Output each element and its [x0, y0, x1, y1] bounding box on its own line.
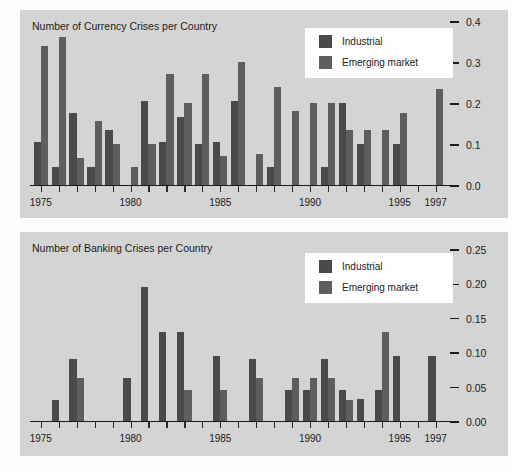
bar-industrial-1979 [105, 130, 112, 185]
bar-industrial-1985 [213, 142, 220, 185]
y-tick-0.1: 0.1 [450, 139, 481, 151]
y-tick-dash-icon [450, 387, 459, 388]
bar-industrial-1993 [357, 144, 364, 185]
y-tick-dash-icon [450, 21, 459, 22]
bar-emerging-market-1977 [77, 158, 84, 185]
bar-emerging-market-1983 [184, 103, 191, 185]
bar-industrial-1994 [375, 390, 382, 421]
bar-emerging-market-1985 [220, 390, 227, 421]
bar-emerging-market-1981 [148, 144, 155, 185]
legend-label-emerging: Emerging market [342, 282, 418, 293]
y-tick-0.20: 0.20 [450, 278, 486, 290]
bar-emerging-market-1985 [220, 156, 227, 185]
x-label-1975: 1975 [30, 433, 52, 444]
bar-emerging-market-1979 [113, 144, 120, 185]
figure-two-panel-crisis-charts: Number of Currency Crises per Country 19… [0, 0, 512, 472]
bar-emerging-market-1997 [436, 89, 443, 185]
x-label-1980: 1980 [119, 197, 141, 208]
bar-emerging-market-1994 [382, 130, 389, 185]
bar-emerging-market-1988 [274, 87, 281, 185]
bar-industrial-1991 [321, 167, 328, 185]
y-tick-dash-icon [450, 249, 459, 250]
y-tick-label: 0.0 [466, 180, 481, 192]
bar-emerging-market-1987 [256, 154, 263, 185]
legend-label-industrial: Industrial [342, 261, 383, 272]
legend-currency: Industrial Emerging market [305, 28, 453, 78]
y-tick-0.3: 0.3 [450, 57, 481, 69]
bar-emerging-market-1984 [202, 74, 209, 185]
y-tick-label: 0.15 [466, 313, 486, 325]
bar-emerging-market-1990 [310, 378, 317, 421]
x-label-1985: 1985 [209, 197, 231, 208]
bar-industrial-1990 [303, 390, 310, 421]
bar-emerging-market-1990 [310, 103, 317, 185]
y-tick-label: 0.3 [466, 57, 481, 69]
y-tick-label: 0.4 [466, 16, 481, 28]
y-tick-label: 0.00 [466, 416, 486, 428]
bar-industrial-1976 [52, 167, 59, 185]
x-label-1995: 1995 [389, 433, 411, 444]
bar-emerging-market-1986 [238, 62, 245, 185]
bar-emerging-market-1992 [346, 130, 353, 185]
bar-industrial-1981 [141, 287, 148, 421]
y-tick-0.00: 0.00 [450, 416, 486, 428]
bar-emerging-market-1991 [328, 378, 335, 421]
x-label-1985: 1985 [209, 433, 231, 444]
y-tick-dash-icon [450, 103, 459, 104]
bar-industrial-1988 [267, 167, 274, 185]
y-tick-0.05: 0.05 [450, 382, 486, 394]
bar-industrial-1993 [357, 399, 364, 421]
bar-emerging-market-1978 [95, 121, 102, 185]
bar-industrial-1978 [87, 167, 94, 185]
bar-emerging-market-1976 [59, 37, 66, 185]
legend-item-industrial: Industrial [319, 260, 383, 273]
x-label-1990: 1990 [299, 197, 321, 208]
x-label-1997: 1997 [425, 433, 447, 444]
x-label-1990: 1990 [299, 433, 321, 444]
bar-industrial-1980 [123, 378, 130, 421]
y-tick-label: 0.25 [466, 244, 486, 256]
y-tick-label: 0.10 [466, 347, 486, 359]
bar-industrial-1981 [141, 101, 148, 185]
y-tick-dash-icon [450, 421, 459, 422]
y-tick-0.25: 0.25 [450, 244, 486, 256]
bar-industrial-1989 [285, 390, 292, 421]
bar-emerging-market-1982 [166, 74, 173, 185]
bar-industrial-1976 [52, 400, 59, 421]
legend-swatch-emerging-icon [319, 56, 332, 69]
y-tick-dash-icon [450, 144, 459, 145]
bar-industrial-1995 [393, 144, 400, 185]
bar-emerging-market-1975 [41, 46, 48, 185]
y-tick-0.0: 0.0 [450, 180, 481, 192]
bar-industrial-1986 [231, 101, 238, 185]
bar-emerging-market-1994 [382, 332, 389, 421]
bar-emerging-market-1977 [77, 378, 84, 421]
bar-emerging-market-1989 [292, 378, 299, 421]
bar-emerging-market-1989 [292, 111, 299, 185]
bar-industrial-1983 [177, 117, 184, 185]
y-tick-0.10: 0.10 [450, 347, 486, 359]
x-axis-labels-banking: 197519801985199019951997 [30, 422, 450, 442]
y-tick-label: 0.05 [466, 382, 486, 394]
legend-item-emerging: Emerging market [319, 281, 418, 294]
x-label-1975: 1975 [30, 197, 52, 208]
legend-swatch-emerging-icon [319, 281, 332, 294]
y-tick-label: 0.2 [466, 98, 481, 110]
bar-industrial-1995 [393, 356, 400, 421]
x-label-1997: 1997 [425, 197, 447, 208]
bar-industrial-1991 [321, 359, 328, 421]
bar-industrial-1984 [195, 144, 202, 185]
bar-industrial-1992 [339, 103, 346, 185]
y-axis-banking: 0.000.050.100.150.200.25 [450, 250, 508, 422]
legend-item-industrial: Industrial [319, 35, 383, 48]
bar-emerging-market-1992 [346, 400, 353, 421]
bar-industrial-1987 [249, 359, 256, 421]
bar-industrial-1982 [159, 332, 166, 421]
bar-industrial-1992 [339, 390, 346, 421]
bar-emerging-market-1980 [131, 167, 138, 185]
bar-industrial-1982 [159, 142, 166, 185]
y-axis-currency: 0.00.10.20.30.4 [450, 22, 508, 186]
bar-industrial-1983 [177, 332, 184, 421]
legend-label-industrial: Industrial [342, 36, 383, 47]
y-tick-dash-icon [450, 185, 459, 186]
